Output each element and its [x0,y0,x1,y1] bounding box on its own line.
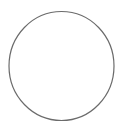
circle-outline [9,12,114,121]
drawing-canvas [0,0,134,126]
circle-graphic [0,0,134,126]
